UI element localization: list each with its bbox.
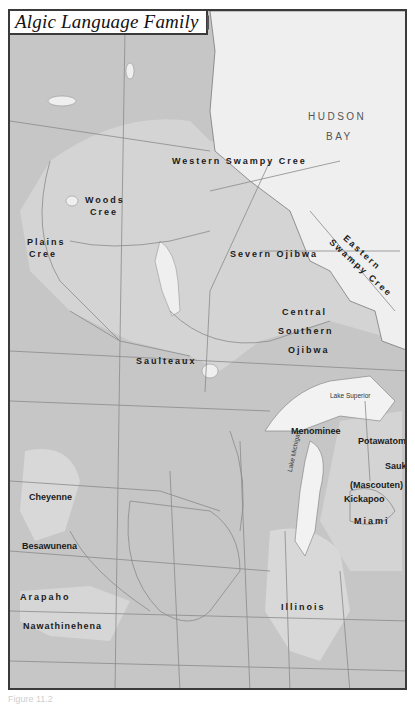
- label-saulteaux: Saulteaux: [136, 356, 197, 366]
- label-western-swampy-cree: Western Swampy Cree: [172, 156, 307, 166]
- label-cheyenne: Cheyenne: [29, 492, 72, 502]
- label-arapaho: Arapaho: [20, 592, 71, 602]
- hudson-bay-label-2: BAY: [326, 131, 353, 142]
- legend-swatch-icon: [207, 15, 209, 30]
- map-frame: HUDSON BAY Lake Superior Lake Michigan W…: [8, 9, 407, 690]
- label-woods-cree-2: Cree: [90, 207, 118, 217]
- label-besawunena: Besawunena: [22, 541, 77, 551]
- map-legend: Algic Language Family: [8, 9, 208, 35]
- label-nawathinehena: Nawathinehena: [23, 621, 102, 631]
- label-central-southern-ojibwa-1: Central: [282, 307, 327, 317]
- label-sauk: Sauk: [385, 461, 407, 471]
- label-severn-ojibwa: Severn Ojibwa: [230, 249, 318, 259]
- map-title: Algic Language Family: [15, 11, 199, 33]
- label-potawatomi: Potawatomi: [358, 436, 407, 446]
- label-plains-cree-2: Cree: [29, 249, 57, 259]
- label-central-southern-ojibwa-3: Ojibwa: [288, 345, 330, 355]
- label-illinois: Illinois: [281, 602, 326, 612]
- figure-caption: Figure 11.2: [8, 694, 53, 704]
- label-miami: Miami: [354, 516, 390, 526]
- hudson-bay-label-1: HUDSON: [308, 111, 366, 122]
- label-mascouten: (Mascouten): [350, 480, 403, 490]
- lake-superior-label: Lake Superior: [330, 392, 370, 399]
- label-kickapoo: Kickapoo: [344, 494, 385, 504]
- label-plains-cree-1: Plains: [27, 237, 66, 247]
- label-central-southern-ojibwa-2: Southern: [278, 326, 334, 336]
- label-menominee: Menominee: [291, 426, 341, 436]
- label-woods-cree-1: Woods: [85, 195, 125, 205]
